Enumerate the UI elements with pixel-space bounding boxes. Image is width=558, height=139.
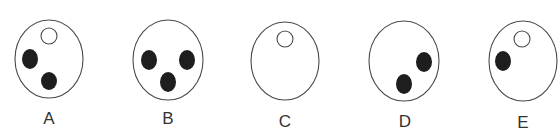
open-circle (41, 28, 57, 44)
filled-dot (396, 74, 412, 94)
filled-dot (41, 72, 57, 90)
filled-dot (495, 51, 511, 71)
figure-option-b: B (133, 20, 203, 128)
option-label: A (43, 109, 55, 128)
filled-dot (179, 50, 195, 70)
option-label: D (399, 112, 411, 131)
figure-option-a: A (15, 20, 83, 128)
option-figures-diagram: ABCDE (0, 0, 558, 139)
figure-option-d: D (369, 21, 439, 131)
open-circle (514, 31, 530, 47)
option-label: B (162, 109, 173, 128)
option-label: C (279, 112, 291, 131)
filled-dot (22, 49, 38, 69)
open-circle (277, 31, 293, 47)
figure-option-e: E (489, 21, 557, 132)
filled-dot (416, 52, 432, 72)
option-label: E (517, 113, 528, 132)
filled-dot (160, 72, 176, 92)
filled-dot (141, 50, 157, 70)
figure-option-c: C (251, 22, 319, 131)
